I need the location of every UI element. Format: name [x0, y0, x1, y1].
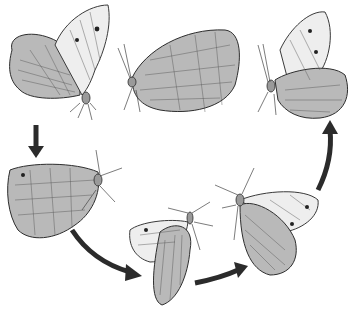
- butterfly-top-center: [118, 30, 239, 112]
- butterfly-cycle-illustration: [0, 0, 357, 310]
- butterfly-bottom-right: [215, 168, 318, 275]
- arrow-curved-up: [318, 120, 338, 190]
- butterfly-top-right: [258, 12, 348, 118]
- butterfly-bottom-center: [130, 202, 213, 305]
- arrow-curved-right: [195, 262, 248, 283]
- butterfly-middle-left: [8, 150, 122, 238]
- butterfly-top-left: [10, 5, 110, 120]
- arrow-down: [28, 125, 44, 158]
